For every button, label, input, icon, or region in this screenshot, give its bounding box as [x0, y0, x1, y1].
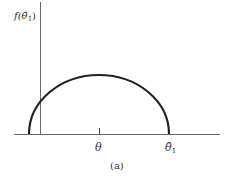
- x-end-label-theta-hat: θ̂1: [165, 141, 176, 155]
- figure-caption: (a): [110, 160, 124, 171]
- y-axis-label: f(θ̂1): [13, 10, 36, 23]
- x-tick-label-theta: θ: [95, 141, 102, 154]
- density-diagram: f(θ̂1) θ θ̂1 (a): [0, 0, 235, 180]
- density-curve: [29, 75, 169, 134]
